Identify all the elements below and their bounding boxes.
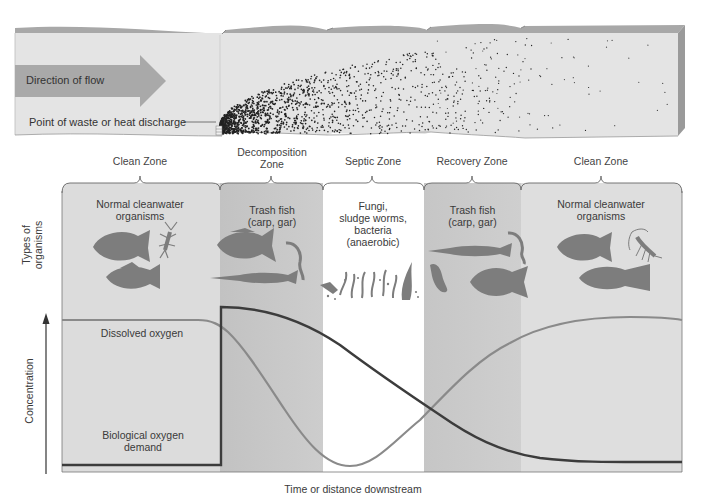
zone-name-clean-1: Clean Zone [90, 155, 190, 167]
organisms-label-line: (carp, gar) [226, 216, 318, 228]
organisms-label-line: Fungi, [323, 200, 423, 212]
zone-name-recovery: Recovery Zone [422, 155, 522, 167]
dissolved-oxygen-label: Dissolved oxygen [92, 327, 192, 339]
types-of-organisms-axis-label: Types of organisms [20, 205, 48, 285]
discharge-pipe-icon [216, 126, 222, 135]
organisms-label-line: Normal cleanwater [80, 198, 200, 210]
concentration-axis-label: Concentration [23, 351, 37, 431]
organisms-label-line: Normal cleanwater [541, 198, 661, 210]
organisms-label-line: (carp, gar) [424, 216, 521, 228]
zone-name-decomposition-line1: Decomposition [226, 146, 318, 158]
organisms-label-line: sludge worms, [323, 212, 423, 224]
zone-name-decomposition: Decomposition Zone [226, 146, 318, 170]
axis-label-line: organisms [32, 205, 44, 285]
organisms-label-line: organisms [541, 210, 661, 222]
organisms-label-line: organisms [80, 210, 200, 222]
diagram-graphics [0, 0, 706, 499]
axis-label-line: Types of [20, 205, 32, 285]
organisms-label-clean-1: Normal cleanwater organisms [80, 198, 200, 222]
zone-name-decomposition-line2: Zone [226, 158, 318, 170]
organisms-label-line: bacteria [323, 224, 423, 236]
organisms-label-line: Trash fish [226, 204, 318, 216]
organisms-label-septic: Fungi, sludge worms, bacteria (anaerobic… [323, 200, 423, 248]
bod-label-line: Biological oxygen [88, 429, 198, 441]
organisms-label-clean-2: Normal cleanwater organisms [541, 198, 661, 222]
bod-label: Biological oxygen demand [88, 429, 198, 453]
organisms-label-line: (anaerobic) [323, 236, 423, 248]
zone-name-septic: Septic Zone [323, 155, 423, 167]
discharge-point-label: Point of waste or heat discharge [29, 116, 186, 128]
flow-direction-label: Direction of flow [26, 74, 104, 86]
organisms-label-recovery: Trash fish (carp, gar) [424, 204, 521, 228]
organisms-label-decomposition: Trash fish (carp, gar) [226, 204, 318, 228]
organisms-label-line: Trash fish [424, 204, 521, 216]
y-axis-arrow-icon [43, 313, 50, 474]
zone-name-clean-2: Clean Zone [551, 155, 651, 167]
x-axis-label: Time or distance downstream [253, 483, 453, 495]
bod-label-line: demand [88, 441, 198, 453]
